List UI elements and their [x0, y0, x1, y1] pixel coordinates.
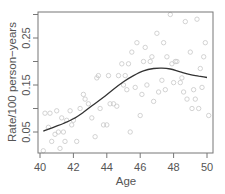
x-tick-label: 44 [101, 161, 113, 173]
x-tick-label: 48 [167, 161, 179, 173]
scatter-chart: 0.050.150.25 404244464850 Age Rate/100 p… [0, 0, 225, 194]
y-tick-label: 0.15 [20, 74, 32, 95]
y-tick-label: 0.05 [20, 121, 32, 142]
x-tick-label: 50 [201, 161, 213, 173]
y-tick-label: 0.25 [20, 27, 32, 48]
x-tick-label: 42 [67, 161, 79, 173]
x-tick-label: 46 [134, 161, 146, 173]
y-axis-title: Rate/100 person−years [6, 22, 18, 142]
x-tick-label: 40 [34, 161, 46, 173]
x-axis-title: Age [116, 175, 136, 187]
